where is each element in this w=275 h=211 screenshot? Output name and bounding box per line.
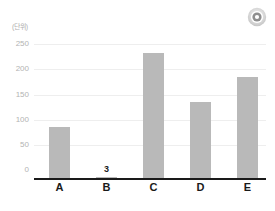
y-axis-unit-label: (단위): [12, 21, 28, 31]
x-axis-line: [34, 178, 266, 180]
bar-d[interactable]: [190, 102, 211, 178]
bar-value-label: 3: [104, 165, 109, 174]
x-axis-label-b: B: [103, 182, 111, 193]
x-axis-label-a: A: [56, 182, 64, 193]
bar-chart-card: (단위) 250 200 150 100 50 0 3 A: [0, 0, 275, 211]
gridline: 250: [34, 44, 266, 45]
bar-e[interactable]: [237, 77, 258, 178]
y-axis-tick-label: 200: [16, 65, 29, 73]
y-axis-tick-label: 150: [16, 91, 29, 99]
bar-a[interactable]: [49, 127, 70, 178]
y-axis-tick-label: 100: [16, 116, 29, 124]
bar-c[interactable]: [143, 53, 164, 178]
plot-area: 250 200 150 100 50 0 3: [34, 44, 266, 178]
x-axis-label-c: C: [150, 182, 158, 193]
x-axis-label-d: D: [197, 182, 205, 193]
x-axis-label-e: E: [244, 182, 251, 193]
y-axis-tick-label: 250: [16, 40, 29, 48]
target-circle-icon: [247, 7, 267, 27]
y-axis-tick-label: 0: [25, 166, 29, 174]
y-axis-tick-label: 50: [20, 141, 29, 149]
